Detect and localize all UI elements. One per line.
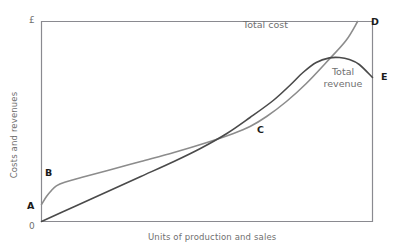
origin-label: 0	[29, 221, 35, 231]
total-cost-label: Total cost	[243, 19, 288, 31]
point-label-c: C	[257, 124, 264, 135]
plot-frame	[41, 21, 373, 222]
y-axis-currency-symbol: £	[29, 15, 35, 25]
total-revenue-label-line2: revenue	[316, 78, 370, 90]
point-label-b: B	[45, 167, 52, 178]
chart-canvas	[0, 0, 410, 252]
x-axis-title: Units of production and sales	[148, 232, 276, 242]
point-label-a: A	[27, 200, 34, 211]
point-label-e: E	[381, 71, 388, 82]
y-axis-title: Costs and revenues	[9, 75, 19, 195]
total-cost-curve	[42, 22, 358, 205]
point-label-d: D	[371, 16, 379, 27]
total-revenue-label: Total revenue	[316, 66, 370, 90]
chart-figure: Costs and revenues Units of production a…	[0, 0, 410, 252]
total-revenue-label-line1: Total	[316, 66, 370, 78]
series-group	[42, 22, 373, 222]
